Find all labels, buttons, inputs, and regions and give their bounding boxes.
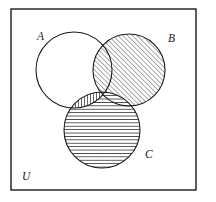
set-c-label: C	[145, 148, 153, 160]
set-b-label: B	[168, 32, 175, 44]
venn-diagram-figure: A B C U	[0, 0, 216, 202]
venn-diagram-canvas: A B C U	[0, 0, 216, 202]
set-a-label: A	[36, 30, 45, 42]
universal-set-label: U	[22, 170, 31, 182]
